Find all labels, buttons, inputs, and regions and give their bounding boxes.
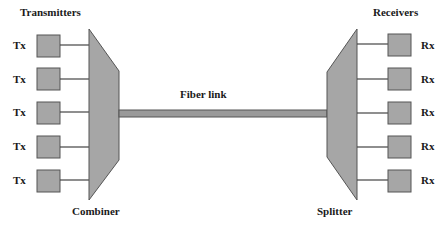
tx-box: [37, 170, 60, 192]
tx-label: Tx: [13, 106, 26, 118]
rx-box: [388, 170, 411, 192]
wdm-diagram: [0, 0, 448, 227]
splitter-shape: [327, 29, 357, 200]
transmitter-group: [37, 35, 89, 192]
tx-box: [37, 102, 60, 124]
fiber-link-label: Fiber link: [180, 88, 227, 100]
tx-label: Tx: [13, 140, 26, 152]
receiver-group: [357, 34, 411, 192]
transmitters-title: Transmitters: [20, 6, 81, 18]
rx-label: Rx: [421, 39, 434, 51]
rx-label: Rx: [421, 73, 434, 85]
fiber-link: [119, 110, 327, 117]
combiner-label: Combiner: [72, 205, 120, 217]
receivers-title: Receivers: [373, 6, 418, 18]
rx-label: Rx: [421, 174, 434, 186]
combiner-shape: [89, 29, 119, 200]
rx-label: Rx: [421, 106, 434, 118]
tx-box: [37, 136, 60, 158]
splitter-label: Splitter: [317, 205, 352, 217]
tx-label: Tx: [13, 39, 26, 51]
rx-label: Rx: [421, 140, 434, 152]
rx-box: [388, 34, 411, 56]
tx-label: Tx: [13, 174, 26, 186]
rx-box: [388, 102, 411, 124]
tx-box: [37, 68, 60, 90]
rx-box: [388, 136, 411, 158]
rx-box: [388, 68, 411, 90]
tx-box: [37, 35, 60, 57]
tx-label: Tx: [13, 73, 26, 85]
